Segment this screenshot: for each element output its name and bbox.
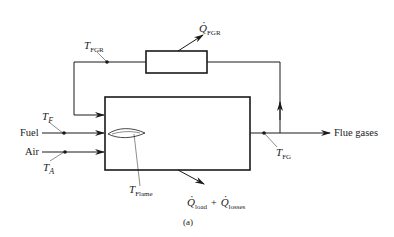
qlosses-subscript: losses bbox=[229, 203, 246, 211]
qlosses-symbol: Q bbox=[221, 197, 229, 208]
tfg-subscript: FG bbox=[282, 153, 291, 161]
fuel-label: Fuel bbox=[20, 128, 39, 139]
furnace-box bbox=[105, 97, 250, 170]
air-label: Air bbox=[25, 147, 39, 158]
diagram-canvas: TFGR QFGR TF Fuel Air TA TFlame Qload + … bbox=[0, 0, 394, 237]
tfg-junction-dot bbox=[262, 131, 266, 135]
tf-subscript: F bbox=[48, 116, 53, 125]
tf-junction-dot bbox=[62, 131, 66, 135]
fgr-heat-arrow bbox=[178, 35, 203, 51]
tflame-leader bbox=[134, 134, 140, 186]
tflame-subscript: Flame bbox=[135, 190, 153, 198]
tfgr-junction-dot bbox=[105, 60, 109, 64]
heat-out-arrow bbox=[178, 170, 204, 184]
ta-junction-dot bbox=[63, 150, 67, 154]
qload-subscript: load bbox=[195, 203, 207, 211]
plus-sign: + bbox=[211, 197, 217, 208]
heat-out-label: Qload + Qlosses bbox=[187, 193, 245, 209]
qfgr-label: QFGR bbox=[199, 19, 221, 35]
figure-caption: (a) bbox=[183, 218, 193, 227]
ta-leader bbox=[50, 152, 64, 161]
qfgr-subscript: FGR bbox=[207, 29, 221, 37]
ta-label: TA bbox=[43, 162, 54, 173]
ta-subscript: A bbox=[49, 167, 54, 176]
flame-shape bbox=[108, 129, 145, 138]
tfgr-subscript: FGR bbox=[90, 46, 104, 54]
recirculation-feed-line bbox=[74, 62, 146, 115]
qfgr-symbol: Q bbox=[199, 23, 207, 34]
tfg-label: TFG bbox=[276, 147, 291, 158]
fgr-heat-exchanger-box bbox=[146, 51, 207, 73]
tfgr-label: TFGR bbox=[84, 40, 104, 51]
flue-gases-label: Flue gases bbox=[334, 128, 378, 139]
qload-symbol: Q bbox=[187, 197, 195, 208]
tflame-label: TFlame bbox=[129, 184, 153, 195]
tf-label: TF bbox=[42, 111, 53, 122]
